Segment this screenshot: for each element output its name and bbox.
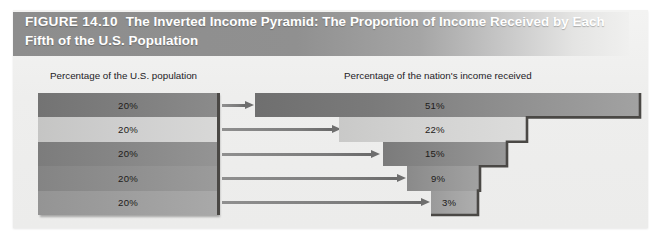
figure-header-text: FIGURE 14.10The Inverted Income Pyramid:…	[25, 13, 625, 50]
income-bar-value: 22%	[425, 124, 445, 135]
connector-arrow	[222, 103, 254, 108]
population-bar-row: 20%	[38, 93, 218, 117]
population-bar-row: 20%	[38, 142, 218, 166]
population-bar-value: 20%	[118, 124, 138, 135]
population-bar-value: 20%	[118, 148, 138, 159]
population-axis-spine	[217, 93, 220, 215]
connector-arrow	[222, 152, 380, 157]
population-bar-row: 20%	[38, 117, 218, 141]
income-bar-value: 51%	[425, 100, 445, 111]
income-bar-value: 15%	[425, 148, 445, 159]
population-bar-stack: 20% 20% 20% 20% 20%	[38, 93, 218, 215]
population-bar-value: 20%	[118, 100, 138, 111]
income-bar-value: 9%	[431, 173, 445, 184]
figure-container: FIGURE 14.10The Inverted Income Pyramid:…	[0, 0, 661, 238]
connector-arrow	[222, 127, 341, 132]
population-bar-row: 20%	[38, 166, 218, 190]
population-bar-value: 20%	[118, 173, 138, 184]
caption-population: Percentage of the U.S. population	[50, 70, 197, 81]
caption-income: Percentage of the nation's income receiv…	[344, 70, 532, 81]
income-bar-row: 3%	[431, 191, 478, 215]
income-bar-row: 15%	[383, 142, 507, 166]
connector-arrow	[222, 200, 430, 205]
income-bar-value: 3%	[442, 197, 456, 208]
figure-number: FIGURE 14.10	[25, 14, 118, 29]
population-bar-row: 20%	[38, 191, 218, 215]
income-bar-row: 22%	[339, 117, 527, 141]
income-bar-row: 51%	[255, 93, 640, 117]
connector-arrow	[222, 176, 406, 181]
income-bar-row: 9%	[407, 166, 480, 190]
population-bar-value: 20%	[118, 197, 138, 208]
